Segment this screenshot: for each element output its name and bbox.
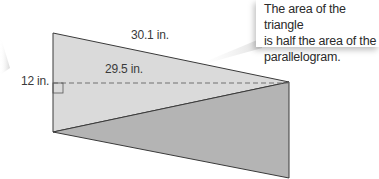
callout-line-2: is half the area of the bbox=[264, 33, 379, 49]
callout-line-3: parallelogram. bbox=[264, 49, 379, 65]
left-callout-tail bbox=[0, 35, 10, 75]
height-label: 12 in. bbox=[21, 74, 49, 88]
slant-side-label: 30.1 in. bbox=[131, 28, 169, 42]
callout-line-1: The area of the triangle bbox=[264, 1, 379, 33]
callout-box: The area of the triangle is half the are… bbox=[256, 0, 379, 47]
base-label: 29.5 in. bbox=[105, 62, 143, 76]
